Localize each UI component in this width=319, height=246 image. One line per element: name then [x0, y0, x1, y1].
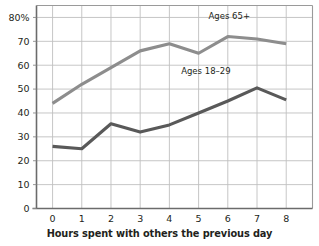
x-tick-label: 8	[283, 213, 289, 224]
y-tick-label: 10	[17, 179, 29, 190]
grid-lines	[37, 6, 313, 209]
y-tick-label: 50	[17, 83, 29, 94]
x-axis-tick-labels: 012345678	[50, 213, 290, 224]
y-tick-label: 20	[17, 155, 29, 166]
x-tick-label: 0	[50, 213, 56, 224]
x-tick-label: 4	[166, 213, 172, 224]
y-axis-tick-labels: 01020304050607080%	[8, 12, 29, 214]
y-tick-label: 30	[17, 131, 29, 142]
x-tick-label: 1	[79, 213, 85, 224]
plot-frame	[33, 6, 313, 209]
y-tick-label: 40	[17, 107, 29, 118]
line-chart: 01020304050607080% 012345678 Ages 65+Age…	[0, 0, 319, 246]
series-label-ages-18-29: Ages 18–29	[181, 66, 230, 76]
y-tick-label: 60	[17, 60, 29, 71]
x-tick-label: 6	[225, 213, 231, 224]
x-tick-label: 2	[108, 213, 114, 224]
y-tick-label: 80%	[8, 12, 29, 23]
series-label-ages-65-plus: Ages 65+	[209, 11, 251, 21]
x-tick-label: 3	[137, 213, 143, 224]
x-axis-title: Hours spent with others the previous day	[0, 228, 319, 239]
x-tick-label: 5	[196, 213, 202, 224]
y-tick-label: 0	[23, 203, 29, 214]
y-tick-label: 70	[17, 36, 29, 47]
chart-plot-area: 01020304050607080% 012345678 Ages 65+Age…	[0, 0, 319, 246]
x-tick-label: 7	[254, 213, 260, 224]
